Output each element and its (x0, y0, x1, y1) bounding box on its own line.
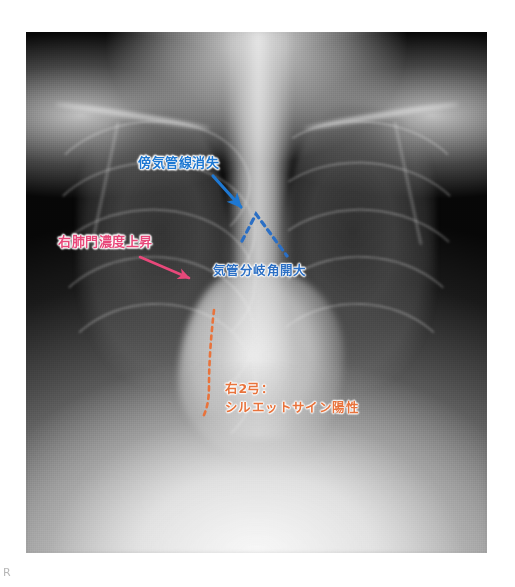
carina-label: 気管分岐角開大 (213, 263, 307, 279)
silhouette-label-line2: シルエットサイン陽性 (225, 400, 359, 416)
chest-xray-image (26, 32, 487, 553)
side-marker-r: R (3, 566, 11, 579)
screenshot-page: 傍気管線消失 右肺門濃度上昇 気管分岐角開大 右2弓： シルエットサイン陽性 R (0, 0, 515, 587)
silhouette-label-line1: 右2弓： (225, 381, 274, 397)
hilar-label: 右肺門濃度上昇 (58, 234, 153, 251)
paratracheal-label: 傍気管線消失 (138, 155, 219, 172)
xray-grain (26, 32, 487, 553)
